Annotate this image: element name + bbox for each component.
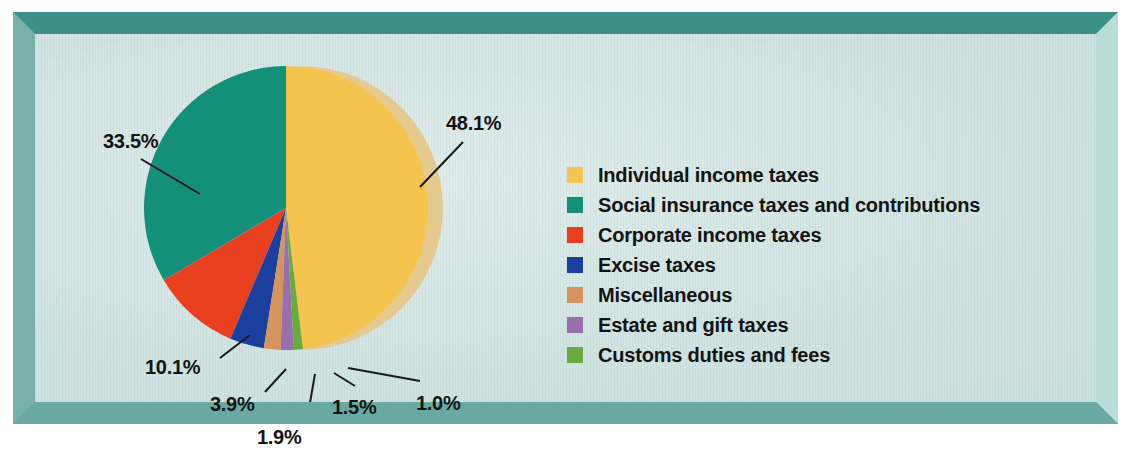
legend-swatch-icon: [567, 167, 583, 183]
pie-slice-layer: [144, 66, 428, 350]
legend-item[interactable]: Individual income taxes: [567, 160, 980, 190]
legend-item-label: Social insurance taxes and contributions: [598, 194, 980, 217]
legend-item[interactable]: Miscellaneous: [567, 280, 980, 310]
legend-item[interactable]: Customs duties and fees: [567, 340, 980, 370]
legend-item-label: Miscellaneous: [598, 284, 732, 307]
legend-item[interactable]: Corporate income taxes: [567, 220, 980, 250]
pie-label-social-insurance: 33.5%: [103, 130, 158, 153]
pie-label-excise-taxes: 3.9%: [210, 393, 254, 416]
legend-swatch-icon: [567, 197, 583, 213]
chart-figure: 48.1%33.5%10.1%3.9%1.9%1.5%1.0% Individu…: [0, 0, 1131, 456]
legend-swatch-icon: [567, 257, 583, 273]
legend-item[interactable]: Excise taxes: [567, 250, 980, 280]
legend-item-label: Customs duties and fees: [598, 344, 830, 367]
frame-bevel-left: [13, 12, 35, 424]
pie-label-miscellaneous: 1.9%: [257, 426, 301, 449]
frame-bevel-bottom: [13, 402, 1118, 424]
legend-swatch-icon: [567, 287, 583, 303]
legend-item-label: Individual income taxes: [598, 164, 819, 187]
pie-slice[interactable]: [286, 66, 428, 349]
pie-label-individual-income-taxes: 48.1%: [446, 112, 501, 135]
leader-line: [307, 374, 315, 402]
pie-label-estate-and-gift-taxes: 1.5%: [332, 396, 376, 419]
chart-panel: 48.1%33.5%10.1%3.9%1.9%1.5%1.0% Individu…: [35, 34, 1096, 402]
leader-line: [334, 373, 355, 386]
legend-item-label: Excise taxes: [598, 254, 716, 277]
legend-item[interactable]: Social insurance taxes and contributions: [567, 190, 980, 220]
leader-line: [265, 369, 286, 392]
legend-swatch-icon: [567, 347, 583, 363]
leader-line: [348, 368, 420, 381]
legend-item[interactable]: Estate and gift taxes: [567, 310, 980, 340]
legend-item-label: Estate and gift taxes: [598, 314, 788, 337]
pie-label-corporate-income-taxes: 10.1%: [145, 356, 200, 379]
legend-swatch-icon: [567, 227, 583, 243]
legend-item-label: Corporate income taxes: [598, 224, 821, 247]
frame-bevel-right: [1096, 12, 1118, 424]
frame-bevel-top: [13, 12, 1118, 34]
legend-swatch-icon: [567, 317, 583, 333]
chart-legend: Individual income taxesSocial insurance …: [567, 160, 980, 370]
pie-label-customs-duties-and-fees: 1.0%: [416, 392, 460, 415]
